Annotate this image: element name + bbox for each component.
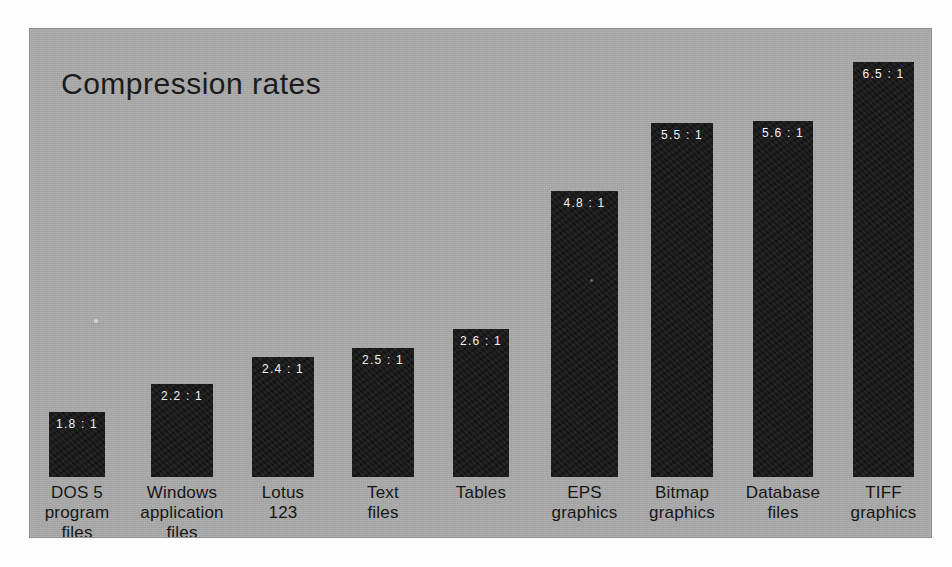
bar-8[interactable]: 5.6 : 1 xyxy=(753,121,813,477)
bar-9[interactable]: 6.5 : 1 xyxy=(853,62,914,477)
bar-value-5: 2.6 : 1 xyxy=(453,334,509,348)
bar-value-3: 2.4 : 1 xyxy=(252,362,314,376)
bar-group-9: 6.5 : 1 TIFF graphics xyxy=(853,62,914,477)
bar-label-7: Bitmap graphics xyxy=(649,483,715,523)
bar-2[interactable]: 2.2 : 1 xyxy=(151,384,213,477)
bar-label-6: EPS graphics xyxy=(552,483,618,523)
bar-value-9: 6.5 : 1 xyxy=(853,67,914,81)
bar-5[interactable]: 2.6 : 1 xyxy=(453,329,509,477)
bar-1[interactable]: 1.8 : 1 xyxy=(49,412,105,477)
scanned-page: Compression rates 1.8 : 1 DOS 5 program … xyxy=(0,0,952,567)
bar-4[interactable]: 2.5 : 1 xyxy=(352,348,414,477)
bar-value-7: 5.5 : 1 xyxy=(651,128,713,142)
chart-title: Compression rates xyxy=(61,67,321,101)
bar-value-8: 5.6 : 1 xyxy=(753,126,813,140)
bar-6[interactable]: 4.8 : 1 xyxy=(551,191,618,477)
chart-panel: Compression rates 1.8 : 1 DOS 5 program … xyxy=(29,28,932,538)
bar-value-4: 2.5 : 1 xyxy=(352,353,414,367)
bar-group-8: 5.6 : 1 Database files xyxy=(753,121,813,477)
bar-group-5: 2.6 : 1 Tables xyxy=(453,329,509,477)
bar-group-6: 4.8 : 1 EPS graphics xyxy=(551,191,618,477)
bar-label-9: TIFF graphics xyxy=(851,483,917,523)
bar-label-1: DOS 5 program files xyxy=(45,483,110,538)
bar-group-1: 1.8 : 1 DOS 5 program files xyxy=(49,412,105,477)
bar-label-5: Tables xyxy=(456,483,506,503)
bar-group-7: 5.5 : 1 Bitmap graphics xyxy=(651,123,713,477)
bar-7[interactable]: 5.5 : 1 xyxy=(651,123,713,477)
bar-group-2: 2.2 : 1 Windows application files xyxy=(151,384,213,477)
bar-label-8: Database files xyxy=(746,483,820,523)
bar-group-4: 2.5 : 1 Text files xyxy=(352,348,414,477)
plot-area: 1.8 : 1 DOS 5 program files 2.2 : 1 Wind… xyxy=(30,29,932,538)
bar-group-3: 2.4 : 1 Lotus 123 xyxy=(252,357,314,477)
bar-value-6: 4.8 : 1 xyxy=(551,196,618,210)
bar-label-2: Windows application files xyxy=(140,483,223,538)
bar-value-2: 2.2 : 1 xyxy=(151,389,213,403)
bar-value-1: 1.8 : 1 xyxy=(49,417,105,431)
bar-label-4: Text files xyxy=(367,483,399,523)
bar-label-3: Lotus 123 xyxy=(262,483,305,523)
bar-3[interactable]: 2.4 : 1 xyxy=(252,357,314,477)
